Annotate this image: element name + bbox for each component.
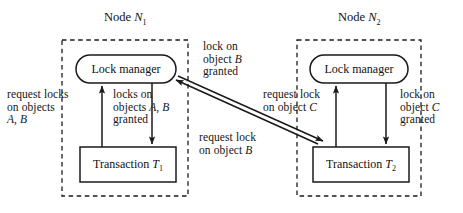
label-lock-b-granted-object: B [235, 53, 242, 65]
diagram-vector-layer [0, 0, 463, 213]
node2-lock-manager-label: Lock manager [310, 62, 408, 76]
lock-manager-diagram: Node N1 Node N2 Lock manager Lock manage… [0, 0, 463, 213]
node2-title-symbol: N [368, 10, 376, 24]
label-locks-ab-granted: locks on objects A, B granted [113, 88, 169, 126]
label-request-lock-b-object: B [245, 144, 252, 156]
label-request-lock-c: request lock on object C [263, 88, 320, 113]
label-request-locks-ab-objects: A, B [7, 113, 27, 125]
node2-title-subscript: 2 [377, 18, 381, 27]
node1-lock-manager-label: Lock manager [76, 62, 176, 76]
node1-title-symbol: N [134, 10, 142, 24]
node1-transaction-symbol: T [152, 157, 159, 171]
node2-transaction-subscript: 2 [392, 164, 396, 173]
label-request-lock-c-object: C [309, 101, 317, 113]
node2-transaction-symbol: T [385, 157, 392, 171]
label-lock-c-granted: lock on object C granted [400, 88, 439, 126]
node1-title-subscript: 1 [143, 18, 147, 27]
node2-title: Node N2 [338, 10, 381, 30]
node2-transaction-label: Transaction T2 [313, 157, 409, 176]
label-lock-c-granted-object: C [432, 101, 440, 113]
node1-transaction-label: Transaction T1 [80, 157, 176, 176]
label-request-locks-ab: request locks on objects A, B [7, 88, 69, 126]
label-request-lock-b: request lock on object B [199, 131, 256, 156]
node1-title: Node N1 [104, 10, 147, 30]
node1-transaction-subscript: 1 [159, 164, 163, 173]
label-locks-ab-granted-objects: A, B [149, 101, 169, 113]
label-lock-b-granted: lock on object B granted [203, 40, 242, 78]
